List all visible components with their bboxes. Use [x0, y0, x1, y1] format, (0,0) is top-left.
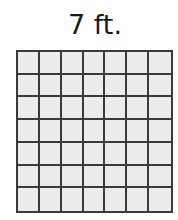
grid-cell [105, 143, 127, 166]
grid-cell [84, 97, 106, 120]
grid-cell [62, 52, 84, 75]
grid-cell [105, 97, 127, 120]
grid-cell [18, 52, 40, 75]
grid-cell [149, 75, 171, 98]
grid-cell [18, 166, 40, 189]
grid-cell [105, 120, 127, 143]
grid-cell [18, 143, 40, 166]
grid-cell [18, 120, 40, 143]
grid-cell [84, 143, 106, 166]
grid-cell [62, 120, 84, 143]
grid-cell [40, 52, 62, 75]
grid-cell [84, 52, 106, 75]
grid-cell [62, 143, 84, 166]
grid-cell [127, 120, 149, 143]
square-unit-grid [16, 50, 173, 213]
grid-cell [127, 97, 149, 120]
grid-cell [40, 120, 62, 143]
grid-cell [149, 120, 171, 143]
grid-cell [149, 97, 171, 120]
side-length-label: 7 ft. [0, 9, 178, 41]
grid-cell [62, 75, 84, 98]
grid-cell [40, 97, 62, 120]
grid-cell [62, 166, 84, 189]
grid-cell [127, 52, 149, 75]
grid-cell [127, 75, 149, 98]
grid-cell [18, 188, 40, 211]
grid-cell [84, 188, 106, 211]
grid-cell [84, 166, 106, 189]
grid-cell [127, 143, 149, 166]
grid-cell [149, 52, 171, 75]
grid-cell [127, 188, 149, 211]
grid-cell [18, 75, 40, 98]
grid-cell [105, 188, 127, 211]
grid-cell [40, 143, 62, 166]
grid-cell [127, 166, 149, 189]
grid-cell [18, 97, 40, 120]
grid-cell [105, 52, 127, 75]
grid-cell [84, 75, 106, 98]
grid-cell [84, 120, 106, 143]
grid-cell [149, 166, 171, 189]
grid-cell [149, 188, 171, 211]
grid-cell [62, 97, 84, 120]
grid-cell [40, 188, 62, 211]
grid-cell [105, 166, 127, 189]
grid-cell [40, 166, 62, 189]
grid-cell [105, 75, 127, 98]
grid-cell [149, 143, 171, 166]
grid-cell [62, 188, 84, 211]
grid-cell [40, 75, 62, 98]
